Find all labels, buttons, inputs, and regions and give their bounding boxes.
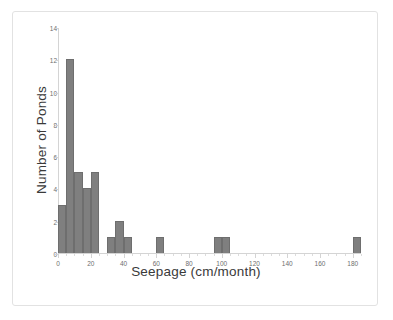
x-tick-mark-major [222, 254, 223, 258]
x-tick-mark-minor [345, 254, 346, 256]
x-tick-mark-major [91, 254, 92, 258]
x-tick-mark-minor [361, 254, 362, 256]
histogram-bar [107, 237, 115, 253]
x-tick-label: 180 [338, 260, 368, 267]
x-tick-mark-major [156, 254, 157, 258]
x-tick-mark-minor [230, 254, 231, 256]
x-tick-mark-minor [214, 254, 215, 256]
x-tick-mark-minor [246, 254, 247, 256]
x-tick-label: 40 [109, 260, 139, 267]
x-tick-mark-major [189, 254, 190, 258]
histogram-bar [115, 221, 123, 253]
y-tick-mark [55, 93, 58, 94]
y-tick-mark [55, 60, 58, 61]
histogram-bar [66, 59, 74, 253]
x-tick-mark-minor [205, 254, 206, 256]
x-tick-mark-major [124, 254, 125, 258]
y-tick-label: 12 [33, 57, 57, 64]
x-tick-mark-minor [66, 254, 67, 256]
x-tick-mark-minor [83, 254, 84, 256]
y-tick-label: 6 [33, 154, 57, 161]
x-tick-label: 160 [305, 260, 335, 267]
x-tick-mark-minor [328, 254, 329, 256]
x-tick-mark-minor [312, 254, 313, 256]
y-tick-label: 0 [33, 251, 57, 258]
x-tick-label: 0 [43, 260, 73, 267]
x-tick-mark-minor [181, 254, 182, 256]
x-tick-mark-major [255, 254, 256, 258]
x-tick-mark-minor [197, 254, 198, 256]
histogram-bar [353, 237, 361, 253]
x-tick-mark-minor [263, 254, 264, 256]
y-tick-label: 14 [33, 25, 57, 32]
x-tick-mark-minor [74, 254, 75, 256]
x-tick-mark-minor [115, 254, 116, 256]
y-tick-mark [55, 189, 58, 190]
x-tick-mark-minor [238, 254, 239, 256]
x-tick-mark-minor [304, 254, 305, 256]
x-tick-mark-minor [279, 254, 280, 256]
y-tick-label: 8 [33, 121, 57, 128]
x-tick-label: 140 [272, 260, 302, 267]
x-tick-label: 80 [174, 260, 204, 267]
histogram-bar [124, 237, 132, 253]
x-tick-label: 120 [240, 260, 270, 267]
x-tick-mark-major [353, 254, 354, 258]
histogram-bar [214, 237, 222, 253]
x-tick-mark-major [58, 254, 59, 258]
y-tick-mark [55, 125, 58, 126]
x-tick-mark-minor [164, 254, 165, 256]
chart-card: Number of Ponds Seepage (cm/month) 02468… [12, 11, 378, 306]
plot-area: 02468101214 020406080100120140160180 [58, 28, 361, 254]
x-tick-label: 20 [76, 260, 106, 267]
x-tick-mark-minor [336, 254, 337, 256]
x-tick-mark-minor [271, 254, 272, 256]
x-tick-label: 60 [141, 260, 171, 267]
y-tick-label: 4 [33, 186, 57, 193]
x-tick-label: 100 [207, 260, 237, 267]
y-tick-mark [55, 157, 58, 158]
x-tick-mark-minor [173, 254, 174, 256]
y-axis-title: Number of Ponds [34, 60, 54, 220]
x-tick-mark-minor [99, 254, 100, 256]
histogram-bar [74, 172, 82, 253]
x-tick-mark-major [320, 254, 321, 258]
x-tick-mark-minor [132, 254, 133, 256]
histogram-bar [58, 205, 66, 253]
x-tick-mark-minor [140, 254, 141, 256]
y-tick-label: 2 [33, 218, 57, 225]
x-tick-mark-minor [148, 254, 149, 256]
x-tick-mark-minor [295, 254, 296, 256]
x-tick-mark-major [287, 254, 288, 258]
histogram-bar [91, 172, 99, 253]
x-tick-mark-minor [107, 254, 108, 256]
y-tick-mark [55, 28, 58, 29]
histogram-bar [156, 237, 164, 253]
histogram-bar [83, 188, 91, 253]
histogram-bar [222, 237, 230, 253]
x-axis-line [58, 253, 361, 254]
y-tick-label: 10 [33, 89, 57, 96]
